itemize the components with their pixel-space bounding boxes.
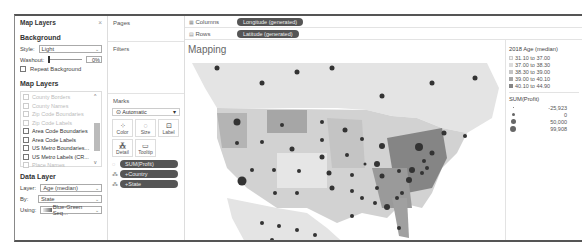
layer-checkbox[interactable] (23, 94, 29, 100)
latitude-pill[interactable]: Latitude (generated) (237, 30, 299, 38)
layer-checkbox[interactable] (23, 162, 29, 168)
map-canvas[interactable] (187, 58, 505, 240)
rows-shelf[interactable]: ▤ Rows Latitude (generated) (185, 28, 582, 40)
layer-label: Place Names (32, 162, 65, 168)
layer-select[interactable]: Age (median)⌄ (40, 184, 102, 192)
empty-slot (158, 139, 179, 157)
layers-scrollbar[interactable]: ^ v (94, 93, 100, 165)
swatch (509, 84, 513, 88)
color-button[interactable]: ⁘Color (112, 119, 133, 137)
legend-label: 38.30 to 39.00 (515, 69, 550, 75)
detail-button[interactable]: ⁂Detail (112, 139, 133, 157)
style-select[interactable]: Light ⌄ (39, 45, 103, 53)
layer-label: Area Code Boundaries (32, 128, 88, 134)
washout-input[interactable]: 0% (86, 56, 102, 63)
legend-item[interactable]: 38.30 to 39.00 (509, 68, 579, 75)
size-marker (510, 126, 516, 132)
legend-item[interactable]: 39.00 to 40.10 (509, 75, 579, 82)
layer-checkbox[interactable] (23, 137, 29, 143)
layer-checkbox[interactable] (23, 111, 29, 117)
legend-item[interactable]: 40.10 to 44.90 (509, 82, 579, 89)
size-marker (511, 119, 516, 124)
tooltip-button[interactable]: ▭Tooltip (135, 139, 156, 157)
layer-item[interactable]: US Metro Labels (CR... (23, 153, 99, 162)
color-label: Color (117, 129, 129, 135)
washout-label: Washout: (20, 57, 44, 63)
style-label: Style: (20, 46, 35, 52)
view-title: Mapping (185, 40, 505, 56)
layer-item[interactable]: Zip Code Boundaries (23, 110, 99, 119)
slider-knob[interactable] (48, 56, 50, 63)
marks-title: Marks (112, 94, 180, 108)
repeat-background-checkbox[interactable] (20, 66, 26, 72)
layer-item[interactable]: Zip Code Labels (23, 119, 99, 128)
legend-item[interactable]: 50,000 (509, 118, 579, 125)
layer-checkbox[interactable] (23, 154, 29, 160)
legend-item[interactable]: 31.10 to 37.00 (509, 54, 579, 61)
using-select[interactable]: Blue-Green Seq... ⌄ (40, 206, 102, 214)
field-pill-state[interactable]: + State (120, 180, 178, 188)
tooltip-icon: ▭ (142, 142, 149, 149)
data-layer-heading: Data Layer (20, 173, 102, 180)
columns-shelf[interactable]: ▦ Columns Longitude (generated) (185, 16, 582, 28)
layer-label: County Borders (32, 94, 70, 100)
close-icon[interactable]: × (98, 19, 102, 26)
tooltip-label: Tooltip (138, 149, 152, 155)
legend-item[interactable]: 37.00 to 38.30 (509, 61, 579, 68)
mark-type-select[interactable]: ⊙ Automatic ▾ (112, 108, 180, 116)
field-pill-country[interactable]: + Country (120, 170, 178, 178)
layer-label: Zip Code Boundaries (32, 111, 84, 117)
rows-label: Rows (195, 31, 210, 37)
layer-item[interactable]: County Names (23, 102, 99, 111)
mark-type-value: Automatic (122, 109, 146, 115)
filters-card[interactable]: Filters (108, 42, 184, 94)
swatch (509, 63, 513, 67)
legend-label: 0 (519, 112, 579, 118)
scrollbar-thumb[interactable] (94, 123, 100, 151)
label-button[interactable]: ⊡Label (158, 119, 179, 137)
layer-item[interactable]: Place Names (23, 161, 99, 170)
label-icon: ⊡ (166, 122, 172, 129)
chevron-down-icon: ⌄ (95, 46, 99, 52)
chevron-down-icon: ⌄ (95, 185, 99, 191)
map-graphic (187, 58, 505, 240)
layer-item[interactable]: Area Code Boundaries (23, 127, 99, 136)
detail-icon: ⁂ (112, 181, 117, 187)
longitude-pill[interactable]: Longitude (generated) (237, 18, 303, 26)
legend-label: 50,000 (519, 119, 579, 125)
legend-item[interactable]: 0 (509, 111, 579, 118)
detail-icon: ⁂ (119, 142, 126, 149)
view-area: Mapping (185, 40, 505, 240)
legend-label: 40.10 to 44.90 (515, 83, 550, 89)
layer-label: County Names (32, 103, 68, 109)
layer-checkbox[interactable] (23, 103, 29, 109)
layer-checkbox[interactable] (23, 128, 29, 134)
color-icon: ⁘ (120, 122, 126, 129)
style-value: Light (42, 46, 55, 52)
chevron-down-icon: ▾ (173, 109, 176, 115)
columns-label: Columns (195, 19, 219, 25)
size-button[interactable]: ◌Size (135, 119, 156, 137)
layer-checkbox[interactable] (23, 145, 29, 151)
chevron-up-icon[interactable]: ^ (94, 93, 96, 99)
layer-checkbox[interactable] (23, 120, 29, 126)
map-layers-list: County Borders County Names Zip Code Bou… (20, 91, 102, 167)
legend-item[interactable]: 99,908 (509, 125, 579, 132)
color-legend-title: 2018 Age (median) (509, 46, 579, 52)
shelves: ▦ Columns Longitude (generated) ▤ Rows L… (185, 16, 582, 40)
tableau-workspace: Map Layers × Background Style: Light ⌄ W… (14, 14, 582, 242)
legend-divider (509, 89, 579, 93)
layer-item[interactable]: County Borders (23, 93, 99, 102)
chevron-down-icon[interactable]: v (94, 159, 97, 165)
layer-item[interactable]: US Metro Boundaries... (23, 144, 99, 153)
legend-item[interactable]: -25,923 (509, 104, 579, 111)
pages-card[interactable]: Pages (108, 16, 184, 42)
chevron-down-icon: ⌄ (95, 196, 99, 202)
layer-item[interactable]: Area Code Labels (23, 136, 99, 145)
washout-slider[interactable] (48, 59, 82, 60)
layer-label: US Metro Labels (CR... (32, 154, 89, 160)
field-pill-profit[interactable]: SUM(Profit) (120, 160, 178, 168)
layer-label: US Metro Boundaries... (32, 145, 89, 151)
by-select[interactable]: State⌄ (38, 195, 102, 203)
chevron-down-icon: ⌄ (95, 207, 99, 213)
